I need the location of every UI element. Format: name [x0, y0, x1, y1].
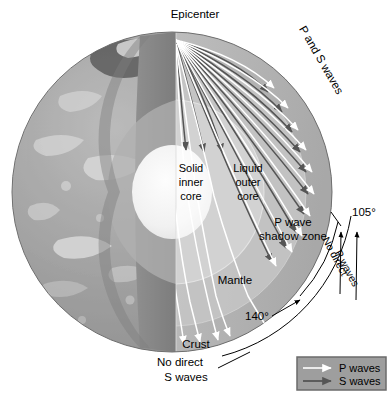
svg-text:Solid: Solid	[179, 162, 203, 174]
svg-text:P wave: P wave	[274, 216, 312, 228]
svg-text:inner: inner	[179, 176, 204, 188]
angle-105-tick-outer	[356, 232, 357, 300]
seismic-wave-diagram: Epicenter P and S waves Solid inner core…	[0, 0, 390, 397]
angle-105-label: 105°	[352, 206, 376, 218]
globe	[12, 32, 332, 352]
svg-text:outer: outer	[235, 176, 260, 188]
no-direct-s-waves-label: No direct S waves	[157, 356, 208, 383]
angle-105-leader	[331, 212, 341, 226]
epicenter-label: Epicenter	[171, 8, 220, 20]
angle-140-label: 140°	[245, 310, 269, 322]
svg-text:No direct: No direct	[157, 356, 204, 368]
legend-label-p-waves: P waves	[339, 362, 381, 374]
legend: P waves S waves	[297, 357, 386, 390]
mantle-label: Mantle	[218, 274, 253, 286]
diagram-canvas: Epicenter P and S waves Solid inner core…	[0, 0, 390, 397]
svg-text:shadow zone: shadow zone	[259, 230, 327, 242]
svg-text:core: core	[237, 190, 258, 202]
svg-text:core: core	[180, 190, 201, 202]
legend-label-s-waves: S waves	[339, 375, 381, 387]
svg-text:Liquid: Liquid	[233, 162, 262, 174]
p-and-s-waves-label: P and S waves	[297, 24, 346, 96]
svg-text:S waves: S waves	[164, 371, 208, 383]
crust-label: Crust	[182, 338, 210, 350]
no-direct-s-leader	[218, 352, 250, 368]
liquid-outer-core-label: Liquid outer core	[233, 162, 262, 202]
solid-inner-core-label: Solid inner core	[179, 162, 204, 202]
cutaway-wedge	[13, 32, 332, 352]
